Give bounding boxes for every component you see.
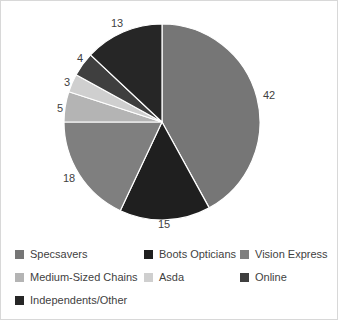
pie-chart-figure: 42151853413 SpecsaversBoots OpticiansVis… <box>0 0 338 320</box>
legend-swatch-icon <box>15 273 24 282</box>
legend-item-label: Vision Express <box>255 249 328 260</box>
pie-data-label: 3 <box>64 77 70 88</box>
chart-legend: SpecsaversBoots OpticiansVision ExpressM… <box>1 243 337 319</box>
legend-item[interactable]: Independents/Other <box>15 289 127 311</box>
pie-data-label: 42 <box>263 90 275 101</box>
legend-swatch-icon <box>15 250 24 259</box>
legend-swatch-icon <box>15 296 24 305</box>
legend-item-label: Asda <box>159 272 184 283</box>
pie-data-label: 15 <box>158 219 170 230</box>
legend-item-label: Independents/Other <box>30 295 127 306</box>
legend-item[interactable]: Vision Express <box>240 243 328 265</box>
pie-data-label: 13 <box>111 18 123 29</box>
legend-row: SpecsaversBoots OpticiansVision Express <box>1 243 337 265</box>
plot-area: 42151853413 <box>1 1 337 239</box>
legend-item[interactable]: Specsavers <box>15 243 87 265</box>
pie-svg <box>63 23 261 221</box>
legend-row: Medium-Sized ChainsAsdaOnline <box>1 266 337 288</box>
legend-item-label: Specsavers <box>30 249 87 260</box>
legend-item-label: Boots Opticians <box>159 249 236 260</box>
legend-swatch-icon <box>240 273 249 282</box>
pie-slices <box>64 24 260 220</box>
pie-data-label: 5 <box>57 103 63 114</box>
legend-item[interactable]: Online <box>240 266 287 288</box>
legend-swatch-icon <box>240 250 249 259</box>
legend-item-label: Online <box>255 272 287 283</box>
legend-swatch-icon <box>144 250 153 259</box>
legend-row: Independents/Other <box>1 289 337 311</box>
legend-item[interactable]: Boots Opticians <box>144 243 236 265</box>
legend-item[interactable]: Asda <box>144 266 184 288</box>
legend-swatch-icon <box>144 273 153 282</box>
pie-data-label: 4 <box>77 53 83 64</box>
pie-data-label: 18 <box>63 173 75 184</box>
legend-item[interactable]: Medium-Sized Chains <box>15 266 138 288</box>
legend-item-label: Medium-Sized Chains <box>30 272 138 283</box>
